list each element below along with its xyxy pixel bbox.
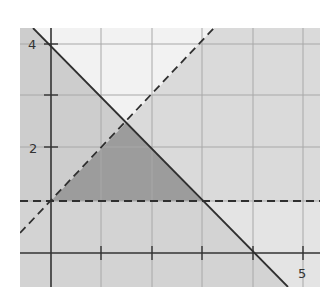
y-tick-label-2: 2 [29,141,37,156]
x-tick-label-5: 5 [298,266,306,281]
plot-area [20,28,320,287]
inequality-graph: 4 2 5 [0,0,335,307]
y-tick-label-4: 4 [28,37,36,52]
